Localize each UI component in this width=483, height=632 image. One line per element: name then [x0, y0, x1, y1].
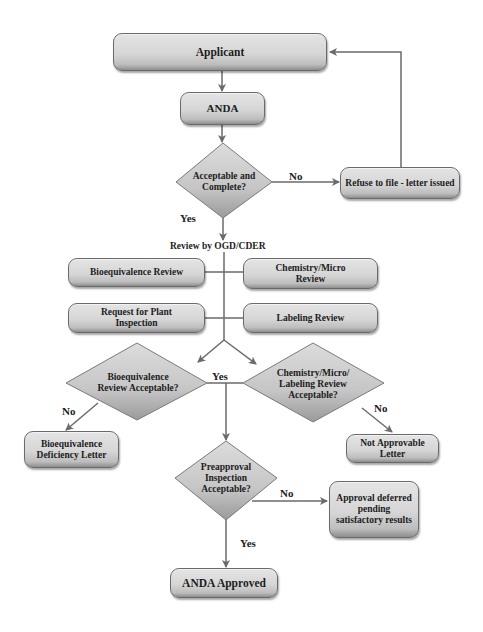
- request-plant-inspection-box: Request for Plant Inspection: [68, 303, 205, 333]
- applicant-label: Applicant: [196, 47, 245, 58]
- anda-approval-flowchart: Applicant ANDA Acceptable and Complete? …: [0, 0, 483, 632]
- chemistry-micro-review-box: Chemistry/Micro Review: [243, 258, 378, 289]
- edge-label-no-preapproval: No: [280, 487, 293, 499]
- not-approvable-label: Not Approvable Letter: [353, 438, 433, 460]
- acceptable-complete-label: Acceptable and Complete?: [186, 168, 262, 196]
- refuse-to-file-label: Refuse to file - letter issued: [345, 178, 454, 189]
- labeling-review-label: Labeling Review: [277, 313, 345, 324]
- approval-deferred-box: Approval deferred pending satisfactory r…: [329, 481, 419, 538]
- anda-box: ANDA: [180, 92, 265, 125]
- edge-label-yes-approved: Yes: [240, 537, 256, 549]
- not-approvable-box: Not Approvable Letter: [346, 434, 439, 463]
- edge-label-no-bio: No: [62, 405, 75, 417]
- bioequivalence-review-box: Bioequivalence Review: [68, 258, 205, 287]
- edge-label-yes-middle: Yes: [212, 370, 228, 382]
- edge-label-yes-review: Yes: [180, 212, 196, 224]
- approval-deferred-label: Approval deferred pending satisfactory r…: [334, 493, 414, 526]
- bioequivalence-deficiency-box: Bioequivalence Deficiency Letter: [24, 431, 119, 468]
- edge-label-no-chem: No: [374, 402, 387, 414]
- applicant-box: Applicant: [113, 33, 327, 71]
- refuse-to-file-box: Refuse to file - letter issued: [340, 167, 460, 199]
- labeling-review-box: Labeling Review: [243, 303, 378, 333]
- anda-approved-box: ANDA Approved: [170, 568, 278, 598]
- request-plant-inspection-label: Request for Plant Inspection: [92, 307, 182, 329]
- bioequivalence-acceptable-label: Bioequivalence Review Acceptable?: [92, 370, 184, 396]
- anda-approved-label: ANDA Approved: [182, 578, 266, 589]
- chem-label-acceptable-label: Chemistry/Micro/ Labeling Review Accepta…: [270, 366, 356, 402]
- edge-label-no-refuse: No: [289, 170, 302, 182]
- preapproval-inspection-label: Preapproval Inspection Acceptable?: [194, 460, 258, 496]
- review-by-label: Review by OGD/CDER: [170, 241, 266, 251]
- chemistry-micro-review-label: Chemistry/Micro Review: [276, 263, 346, 285]
- bioequivalence-review-label: Bioequivalence Review: [90, 267, 183, 278]
- anda-label: ANDA: [207, 103, 239, 114]
- bioequivalence-deficiency-label: Bioequivalence Deficiency Letter: [29, 439, 114, 461]
